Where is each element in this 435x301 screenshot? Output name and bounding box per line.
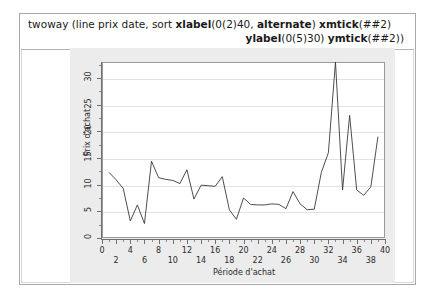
x-tick-label-16: 16 [205,246,225,255]
syntax-keyword-0: ylabel [246,32,282,44]
x-tick-16 [215,240,216,244]
x-tick-label-20: 20 [234,246,254,255]
y-axis-title: Prix d'achat [83,88,92,178]
x-mtick-13 [194,240,195,242]
x-tick-label-34: 34 [333,256,353,265]
syntax-text-1: (0(5)30) [281,32,327,44]
y-mtick-32.5 [99,65,101,66]
x-tick-28 [300,240,301,244]
syntax-keyword-3: alternate [257,18,312,30]
syntax-keyword-2: ymtick [328,32,368,44]
x-tick-8 [159,240,160,244]
x-tick-label-22: 22 [248,256,268,265]
x-tick-18 [229,240,230,244]
x-tick-label-18: 18 [219,256,239,265]
x-tick-label-0: 0 [92,246,112,255]
y-tick-label-30: 30 [84,69,93,85]
x-tick-22 [258,240,259,244]
x-tick-label-28: 28 [290,246,310,255]
x-tick-label-24: 24 [262,246,282,255]
syntax-text-0: twoway (line prix date, sort [28,18,176,30]
syntax-text-6: (##2) [359,18,391,30]
screenshot-root: twoway (line prix date, sort xlabel(0(2)… [0,0,435,301]
x-mtick-9 [166,240,167,242]
x-tick-label-2: 2 [106,256,126,265]
y-tick-20 [97,131,101,132]
syntax-text-3: (##2)) [367,32,404,44]
series-prix-line [109,62,378,224]
x-mtick-1 [109,240,110,242]
y-mtick-17.5 [99,145,101,146]
y-tick-5 [97,211,101,212]
x-tick-label-12: 12 [177,246,197,255]
y-mtick-27.5 [99,91,101,92]
x-mtick-11 [180,240,181,242]
x-tick-label-40: 40 [375,246,395,255]
syntax-text-4: ) [312,18,319,30]
x-mtick-19 [236,240,237,242]
x-mtick-17 [222,240,223,242]
x-tick-36 [357,240,358,244]
x-mtick-25 [279,240,280,242]
y-tick-label-0: 0 [84,229,93,245]
x-tick-label-8: 8 [149,246,169,255]
y-tick-label-5: 5 [84,202,93,218]
x-mtick-35 [350,240,351,242]
x-tick-32 [328,240,329,244]
x-tick-12 [187,240,188,244]
syntax-line-2: ylabel(0(5)30) ymtick(##2)) [28,31,407,45]
x-mtick-39 [378,240,379,242]
x-mtick-31 [321,240,322,242]
x-mtick-33 [335,240,336,242]
syntax-keyword-5: xmtick [319,18,359,30]
x-mtick-3 [123,240,124,242]
x-tick-40 [385,240,386,244]
x-tick-label-36: 36 [347,246,367,255]
syntax-keyword-1: xlabel [176,18,212,30]
syntax-line-1: twoway (line prix date, sort xlabel(0(2)… [28,17,407,31]
y-mtick-2.5 [99,225,101,226]
x-axis-title: Période d'achat [102,268,386,277]
x-tick-10 [173,240,174,244]
x-tick-24 [272,240,273,244]
y-tick-0 [97,238,101,239]
x-tick-4 [130,240,131,244]
y-mtick-7.5 [99,198,101,199]
x-mtick-23 [265,240,266,242]
x-tick-label-10: 10 [163,256,183,265]
x-tick-label-6: 6 [134,256,154,265]
y-tick-10 [97,185,101,186]
x-tick-label-38: 38 [361,256,381,265]
y-mtick-12.5 [99,171,101,172]
x-mtick-29 [307,240,308,242]
x-tick-38 [371,240,372,244]
x-mtick-5 [137,240,138,242]
x-tick-label-32: 32 [318,246,338,255]
x-tick-26 [286,240,287,244]
x-mtick-37 [364,240,365,242]
data-series-line [102,62,385,238]
y-tick-30 [97,78,101,79]
x-tick-0 [102,240,103,244]
y-tick-label-10: 10 [84,175,93,191]
x-tick-label-14: 14 [191,256,211,265]
x-tick-label-4: 4 [120,246,140,255]
x-tick-label-30: 30 [304,256,324,265]
x-mtick-7 [152,240,153,242]
y-tick-15 [97,158,101,159]
x-tick-2 [116,240,117,244]
x-tick-20 [244,240,245,244]
x-tick-14 [201,240,202,244]
x-tick-6 [144,240,145,244]
x-mtick-27 [293,240,294,242]
syntax-text-2: (0(2)40, [211,18,257,30]
x-mtick-15 [208,240,209,242]
x-tick-30 [314,240,315,244]
x-tick-label-26: 26 [276,256,296,265]
x-mtick-21 [251,240,252,242]
y-tick-25 [97,105,101,106]
stata-syntax-box: twoway (line prix date, sort xlabel(0(2)… [21,14,414,50]
y-mtick-22.5 [99,118,101,119]
x-tick-34 [343,240,344,244]
